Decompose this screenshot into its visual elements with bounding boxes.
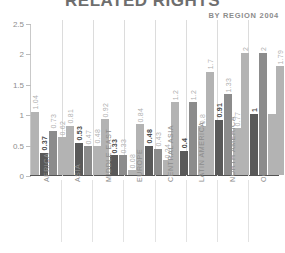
bar: 1.7 xyxy=(206,72,214,175)
y-tick-label: 2 xyxy=(20,50,24,59)
x-label-separator xyxy=(155,180,156,242)
bar-value-label: 2 xyxy=(242,47,249,51)
bar-value-label: 1.33 xyxy=(225,78,232,92)
bar-value-label: 0.81 xyxy=(67,109,74,123)
y-tick-label: 1 xyxy=(20,111,24,120)
bar: 0.33 xyxy=(119,155,127,175)
x-axis-label: CENTRAL ASIA xyxy=(167,125,174,182)
bar-value-label: 1.79 xyxy=(277,50,284,64)
bar xyxy=(268,114,276,175)
x-label-separator xyxy=(92,180,93,242)
bar: 1.79 xyxy=(276,66,284,175)
bar-value-label: 0.33 xyxy=(111,139,118,153)
x-label-separator xyxy=(123,180,124,242)
bar: 0.48 xyxy=(145,146,153,175)
bar-group: 1.790.931.9 xyxy=(276,24,285,175)
bar: 0.4 xyxy=(180,151,188,175)
x-axis-label: LATIN AMERICA xyxy=(198,121,205,182)
x-axis-labels: AFRICAASIAMIDDLE EASTEUROPECENTRAL ASIAL… xyxy=(30,180,279,250)
x-axis-label-cell: CENTRAL ASIA xyxy=(155,180,186,250)
bar: 0.47 xyxy=(84,146,92,175)
x-axis-label-cell: EUROPE xyxy=(123,180,154,250)
x-label-separator xyxy=(217,180,218,242)
x-axis-label-cell: LATIN AMERICA xyxy=(186,180,217,250)
chart-subtitle: BY REGION 2004 xyxy=(208,11,279,20)
bar-group: 212 xyxy=(241,24,276,175)
bar: 0.43 xyxy=(154,149,162,175)
bar-value-label: 0.62 xyxy=(59,121,66,135)
x-axis-label-cell: ASIA xyxy=(61,180,92,250)
plot-area: 00.511.522.5 1.040.370.730.620.810.530.4… xyxy=(30,24,279,176)
bar-value-label: 1 xyxy=(251,108,258,112)
bar-group: 1.70.911.330.77 xyxy=(206,24,241,175)
bar-value-label: 0.92 xyxy=(102,103,109,117)
y-tick-label: 2.5 xyxy=(13,20,24,29)
bar-value-label: 0.48 xyxy=(94,129,101,143)
bar-value-label: 0.33 xyxy=(120,139,127,153)
bar: 0.91 xyxy=(215,120,223,175)
y-tick-label: 0 xyxy=(20,172,24,181)
bar-value-label: 0.73 xyxy=(50,114,57,128)
bar-value-label: 0.47 xyxy=(85,130,92,144)
x-axis-label: ASIA xyxy=(73,164,80,182)
bar-value-label: 1.04 xyxy=(32,95,39,109)
bar-value-label: 0.53 xyxy=(76,126,83,140)
bar-value-label: 1.7 xyxy=(207,59,214,69)
chart-root: RELATED RIGHTS BY REGION 2004 00.511.522… xyxy=(0,0,285,253)
y-tick-label: 1.5 xyxy=(13,80,24,89)
x-axis-label: MIDDLE EAST xyxy=(104,129,111,182)
bar-value-label: 0.84 xyxy=(137,108,144,122)
bar: 1 xyxy=(250,114,258,175)
bar-value-label: 0.4 xyxy=(181,138,188,148)
bar-group: 0.810.530.470.48 xyxy=(66,24,101,175)
bar-value-label: 0.43 xyxy=(155,132,162,146)
bar-value-label: 1.2 xyxy=(190,90,197,100)
x-axis-label: EUROPE xyxy=(135,149,142,182)
x-axis-label-cell: NORTH AMERICA xyxy=(217,180,248,250)
bar-value-label: 0.08 xyxy=(129,154,136,168)
x-axis-label: NORTH AMERICA xyxy=(229,116,236,182)
x-axis-label: OCEANIA xyxy=(260,146,267,182)
bar-value-label: 0.48 xyxy=(146,129,153,143)
bar-value-label: 2 xyxy=(260,47,267,51)
bar: 0.62 xyxy=(58,137,66,175)
x-label-separator xyxy=(61,180,62,242)
bar: 1.2 xyxy=(189,102,197,175)
bar: 0.48 xyxy=(93,146,101,175)
x-label-separator xyxy=(248,180,249,242)
x-axis-label-cell: AFRICA xyxy=(30,180,61,250)
x-label-separator xyxy=(186,180,187,242)
x-axis-label-cell: OCEANIA xyxy=(248,180,279,250)
bar: 2 xyxy=(241,53,249,175)
x-axis-label-cell: MIDDLE EAST xyxy=(92,180,123,250)
y-tick-label: 0.5 xyxy=(13,141,24,150)
bar: 1.04 xyxy=(31,112,39,175)
x-axis-label: AFRICA xyxy=(42,153,49,182)
y-tick-dash xyxy=(26,176,31,177)
bar-groups: 1.040.370.730.620.810.530.470.480.920.33… xyxy=(31,24,279,175)
bar-value-label: 1.2 xyxy=(172,90,179,100)
bar-value-label: 0.37 xyxy=(41,136,48,150)
bar: 0.73 xyxy=(49,131,57,175)
bar-value-label: 0.91 xyxy=(216,103,223,117)
page-title: RELATED RIGHTS xyxy=(0,0,285,9)
